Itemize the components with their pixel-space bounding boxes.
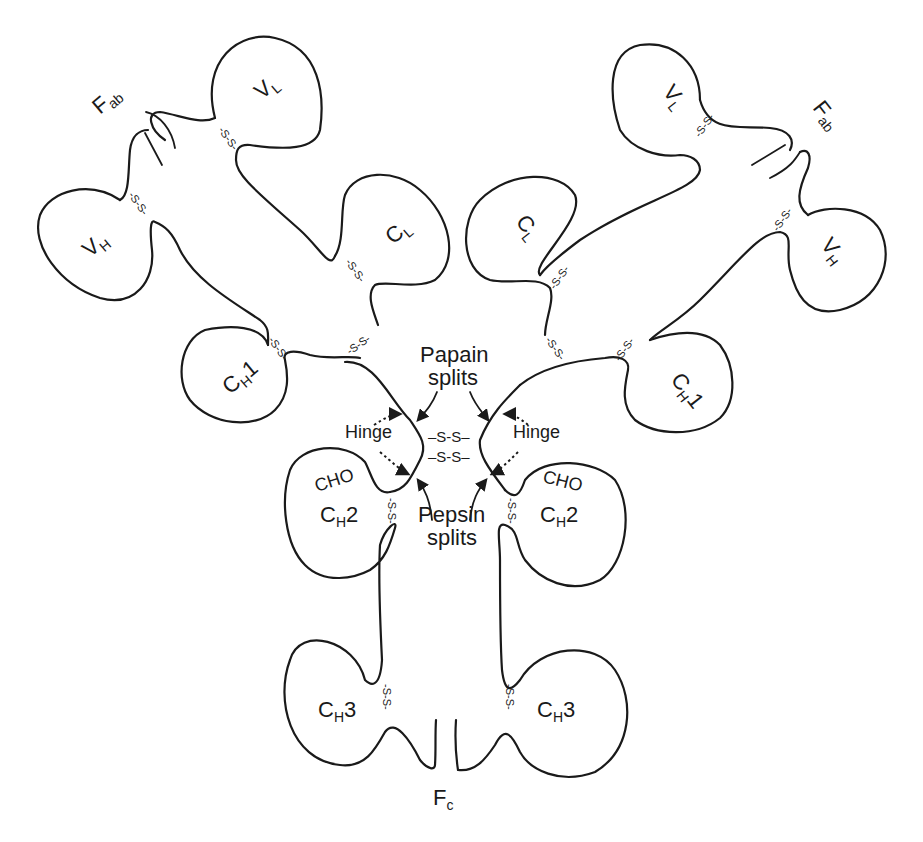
ss-bond-light-heavy-left: -S-S- bbox=[344, 332, 372, 357]
label-cho-left: CHO bbox=[312, 464, 356, 495]
ss-bond-ch3-right: -S-S- bbox=[504, 684, 516, 710]
hinge-arrow-right-down bbox=[492, 452, 518, 474]
label-hinge-right: Hinge bbox=[513, 422, 560, 442]
label-cl-left: CL bbox=[380, 214, 416, 251]
ss-bond-ch3-left: -S-S- bbox=[381, 684, 393, 710]
label-vh-left: VH bbox=[77, 227, 114, 264]
label-vl-left: VL bbox=[249, 70, 284, 106]
ss-bond-vh-right: -S-S- bbox=[770, 205, 795, 233]
ss-bond-ch1-left: -S-S- bbox=[266, 334, 291, 362]
label-pepsin-line1: Pepsin bbox=[418, 502, 485, 527]
label-ch2-right: CH2 bbox=[540, 502, 578, 530]
ss-bond-ch1-right: -S-S- bbox=[612, 335, 637, 363]
label-ch2-left: CH2 bbox=[320, 502, 358, 530]
ch2-right-domain bbox=[499, 463, 626, 670]
right-fab-arm bbox=[455, 44, 885, 777]
label-ch3-right: CH3 bbox=[537, 697, 575, 725]
ss-bond-cl-left: -S-S- bbox=[343, 256, 368, 284]
ss-bond-ch2-right: -S-S- bbox=[506, 498, 518, 524]
antibody-diagram: -S-S- -S-S- -S-S- -S-S- -S-S- -S-S- -S-S… bbox=[0, 0, 923, 842]
label-fab-right: Fab bbox=[806, 96, 845, 136]
label-ch3-left: CH3 bbox=[318, 697, 356, 725]
label-pepsin-line2: splits bbox=[427, 525, 477, 550]
interchain-ss-bond-1: –S-S– bbox=[428, 428, 470, 445]
papain-arrow-right bbox=[470, 392, 488, 420]
label-vh-right: VH bbox=[814, 233, 851, 270]
label-fc: Fc bbox=[433, 785, 453, 813]
ss-bond-light-heavy-right: -S-S- bbox=[543, 334, 568, 362]
label-papain-line1: Papain bbox=[420, 342, 489, 367]
label-ch1-left: CH1 bbox=[217, 355, 264, 401]
cl-left-domain bbox=[335, 175, 449, 325]
ss-bond-cl-right: -S-S- bbox=[547, 263, 572, 291]
interchain-ss-bond-2: –S-S– bbox=[428, 448, 470, 465]
vl-right-domain bbox=[540, 44, 700, 275]
label-vl-right: VL bbox=[656, 80, 692, 115]
label-papain-line2: splits bbox=[428, 365, 478, 390]
ss-bond-vh-left: -S-S- bbox=[126, 189, 151, 217]
ss-bond-vl-right: -S-S- bbox=[692, 111, 717, 139]
label-fab-left: Fab bbox=[87, 81, 127, 120]
label-cho-right: CHO bbox=[541, 466, 585, 495]
ch3-left-domain bbox=[284, 640, 436, 768]
label-ch1-right: CH1 bbox=[664, 368, 710, 415]
disulfide-bonds: -S-S- -S-S- -S-S- -S-S- -S-S- -S-S- -S-S… bbox=[126, 111, 794, 710]
label-hinge-left: Hinge bbox=[345, 422, 392, 442]
label-cl-right: CL bbox=[509, 210, 546, 246]
left-fab-arm bbox=[38, 37, 449, 769]
hinge-arrow-left-down bbox=[380, 452, 408, 474]
ss-bond-ch2-left: -S-S- bbox=[386, 498, 398, 524]
papain-arrow-left bbox=[418, 392, 437, 420]
vh-right-domain bbox=[650, 209, 886, 340]
vh-left-domain bbox=[38, 189, 268, 345]
